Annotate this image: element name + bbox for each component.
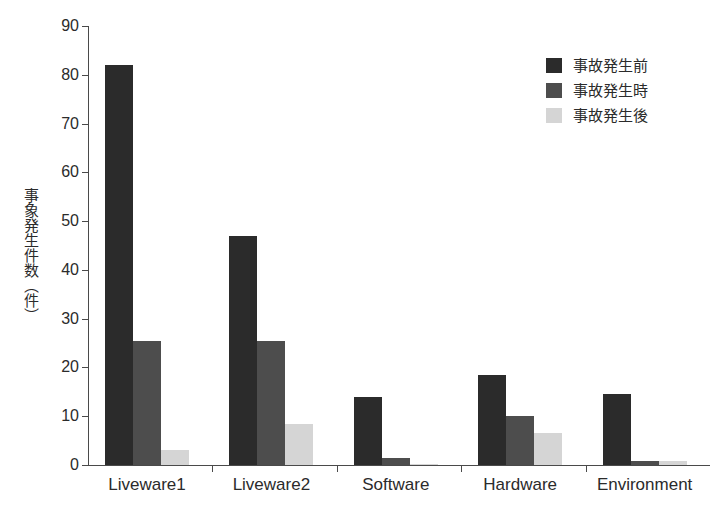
y-tick-label-0: 0 [70, 457, 79, 473]
legend: 事故発生前事故発生時事故発生後 [546, 53, 706, 128]
x-category-label-liveware2: Liveware2 [233, 476, 311, 493]
y-tick-label-60: 60 [61, 164, 79, 180]
legend-label-1: 事故発生時 [573, 83, 648, 98]
y-tick-label-40: 40 [61, 262, 79, 278]
y-tick-0 [82, 465, 89, 466]
bar-environment-series1 [631, 461, 659, 465]
y-axis-line [88, 26, 89, 466]
bar-environment-series2 [659, 461, 687, 465]
y-tick-label-50: 50 [61, 213, 79, 229]
x-tick-4 [586, 465, 587, 472]
legend-item-1[interactable]: 事故発生時 [546, 78, 706, 103]
y-tick-10 [82, 416, 89, 417]
y-tick-label-80: 80 [61, 67, 79, 83]
legend-label-2: 事故発生後 [573, 108, 648, 123]
y-tick-label-90: 90 [61, 18, 79, 34]
legend-swatch-after [546, 108, 562, 123]
legend-item-2[interactable]: 事故発生後 [546, 103, 706, 128]
bar-chart: 事象発生件数（件） 0102030405060708090 Liveware1L… [0, 0, 713, 517]
bar-software-series1 [382, 458, 410, 465]
y-tick-70 [82, 124, 89, 125]
y-tick-30 [82, 319, 89, 320]
y-tick-label-70: 70 [61, 116, 79, 132]
x-category-label-hardware: Hardware [483, 476, 557, 493]
y-tick-90 [82, 26, 89, 27]
y-tick-label-10: 10 [61, 408, 79, 424]
y-tick-20 [82, 367, 89, 368]
bar-liveware2-series0 [229, 236, 257, 465]
x-category-label-software: Software [362, 476, 429, 493]
x-tick-2 [337, 465, 338, 472]
x-tick-1 [212, 465, 213, 472]
bar-software-series2 [410, 464, 438, 465]
legend-item-0[interactable]: 事故発生前 [546, 53, 706, 78]
y-tick-80 [82, 75, 89, 76]
bar-software-series0 [354, 397, 382, 465]
bar-liveware1-series0 [105, 65, 133, 465]
bar-liveware2-series2 [285, 424, 313, 465]
y-tick-label-20: 20 [61, 359, 79, 375]
y-tick-50 [82, 221, 89, 222]
y-tick-label-30: 30 [61, 311, 79, 327]
x-tick-3 [461, 465, 462, 472]
bar-liveware2-series1 [257, 341, 285, 465]
legend-swatch-during [546, 83, 562, 98]
legend-swatch-before [546, 58, 562, 73]
bar-hardware-series0 [478, 375, 506, 465]
y-tick-60 [82, 172, 89, 173]
bar-hardware-series1 [506, 416, 534, 465]
bar-environment-series0 [603, 394, 631, 465]
bar-hardware-series2 [534, 433, 562, 465]
x-axis-line [88, 465, 710, 466]
bar-liveware1-series2 [161, 450, 189, 465]
x-category-label-liveware1: Liveware1 [108, 476, 186, 493]
x-category-label-environment: Environment [597, 476, 692, 493]
y-axis-title: 事象発生件数（件） [8, 170, 38, 340]
y-tick-40 [82, 270, 89, 271]
legend-label-0: 事故発生前 [573, 58, 648, 73]
bar-liveware1-series1 [133, 341, 161, 465]
